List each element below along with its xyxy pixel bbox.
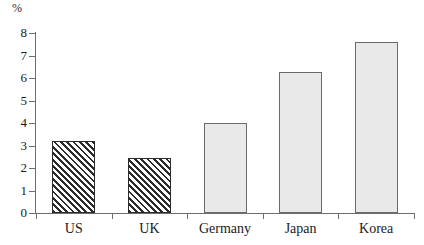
y-axis-tick-label: 7 — [8, 49, 27, 62]
y-axis-tick-label: 2 — [8, 161, 27, 174]
y-axis-tick-label: 6 — [8, 71, 27, 84]
y-axis-tick-label: 5 — [8, 94, 27, 107]
y-axis-tick-label: 4 — [8, 116, 27, 129]
x-axis-label-germany: Germany — [187, 221, 263, 237]
bar-us — [52, 141, 95, 213]
x-axis-label-uk: UK — [112, 221, 188, 237]
x-axis-tick-mark — [338, 213, 339, 219]
x-axis-line — [35, 213, 414, 214]
x-axis-label-korea: Korea — [338, 221, 414, 237]
y-axis-unit-label: % — [12, 2, 22, 14]
x-axis-tick-mark — [187, 213, 188, 219]
y-axis-tick-mark — [29, 78, 36, 79]
y-axis-tick-label: 8 — [8, 26, 27, 39]
x-axis-tick-mark — [112, 213, 113, 219]
bar-germany — [204, 123, 247, 213]
bar-uk — [128, 158, 171, 213]
y-axis-tick-label: 3 — [8, 139, 27, 152]
y-axis-tick-mark — [29, 146, 36, 147]
x-axis-tick-mark — [414, 213, 415, 219]
y-axis-tick-mark — [29, 123, 36, 124]
y-axis-tick-label: 1 — [8, 184, 27, 197]
y-axis-tick-label: 0 — [8, 206, 27, 219]
y-axis-tick-mark — [29, 33, 36, 34]
plot-area — [36, 33, 414, 213]
y-axis-tick-mark — [29, 101, 36, 102]
y-axis-tick-mark — [29, 168, 36, 169]
y-axis-tick-mark — [29, 213, 36, 214]
x-axis-tick-mark — [263, 213, 264, 219]
y-axis-tick-mark — [29, 191, 36, 192]
bar-japan — [279, 72, 322, 213]
x-axis-label-japan: Japan — [263, 221, 339, 237]
bar-chart: % 012345678 USUKGermanyJapanKorea — [0, 0, 424, 245]
y-axis-tick-mark — [29, 56, 36, 57]
bar-korea — [355, 42, 398, 213]
x-axis-tick-mark — [36, 213, 37, 219]
x-axis-label-us: US — [36, 221, 112, 237]
